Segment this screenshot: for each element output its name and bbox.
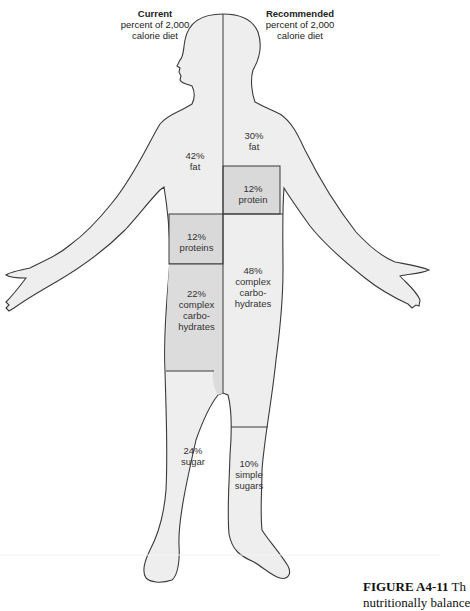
recommended-header: Recommended percent of 2,000 calorie die… xyxy=(245,8,355,41)
current-proteins-label: 12%proteins xyxy=(170,231,223,253)
figure-caption: FIGURE A4-11 Th nutritionally balance xyxy=(363,579,470,611)
current-complex-label: 22%complexcarbo-hydrates xyxy=(170,288,223,332)
recommended-protein-label: 12%protein xyxy=(226,183,280,205)
recommended-simple-label: 10%simplesugars xyxy=(230,458,268,491)
current-header: Current percent of 2,000 calorie diet xyxy=(100,8,210,41)
recommended-fat-label: 30%fat xyxy=(228,130,280,152)
recommended-complex-label: 48%complexcarbo-hydrates xyxy=(226,265,280,309)
current-fat-label: 42%fat xyxy=(170,150,220,172)
current-sugar-label: 24%sugar xyxy=(170,445,216,467)
